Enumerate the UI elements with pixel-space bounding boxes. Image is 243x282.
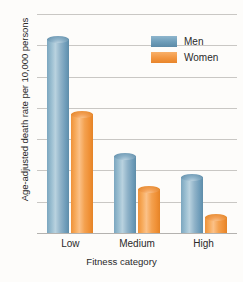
bar-women-low [71, 111, 93, 233]
bar-women-medium [138, 186, 160, 233]
legend-swatch-women-icon [151, 52, 177, 63]
x-tick-label-low: Low [35, 238, 105, 249]
bar-body [71, 114, 93, 233]
y-axis-title: Age-adjusted death rate per 10,000 perso… [19, 0, 30, 220]
x-axis-title: Fitness category [0, 256, 243, 267]
bar-men-low [47, 36, 69, 233]
legend-item-men: Men [151, 36, 218, 47]
bar-top-ellipse [47, 36, 69, 43]
bar-men-medium [114, 153, 136, 233]
legend-swatch-men-icon [151, 36, 177, 47]
bar-body [181, 177, 203, 233]
bar-men-high [181, 174, 203, 233]
gridline [37, 14, 237, 15]
legend-label-women: Women [184, 53, 218, 63]
legend-label-men: Men [184, 37, 203, 47]
x-axis-baseline [37, 233, 237, 234]
legend-item-women: Women [151, 52, 218, 63]
chart-legend: Men Women [151, 36, 218, 68]
bar-women-high [205, 214, 227, 233]
x-tick-label-high: High [169, 238, 239, 249]
bar-chart-figure: Age-adjusted death rate per 10,000 perso… [0, 0, 243, 282]
bar-body [114, 156, 136, 233]
bar-body [138, 189, 160, 233]
figure-caption-sliver [0, 276, 243, 282]
x-tick-label-medium: Medium [102, 238, 172, 249]
bar-top-ellipse [181, 174, 203, 181]
bar-body [47, 39, 69, 233]
